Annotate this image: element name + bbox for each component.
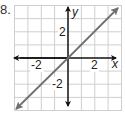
x-tick-label-neg2: -2: [31, 58, 42, 72]
x-axis-label: x: [111, 57, 119, 71]
y-axis-label: y: [71, 5, 79, 19]
coordinate-plane: -2 2 2 -2 x y: [0, 0, 125, 113]
y-tick-label-2: 2: [59, 25, 66, 39]
y-tick-label-neg2: -2: [52, 77, 63, 91]
x-tick-label-2: 2: [91, 58, 98, 72]
